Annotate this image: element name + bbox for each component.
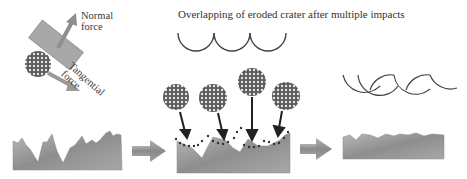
crater-arcs-overlapping xyxy=(343,75,457,96)
particle-icon xyxy=(25,51,51,77)
particle-icon xyxy=(272,82,300,110)
crater-arcs-single xyxy=(178,33,286,51)
diagram-title: Overlapping of eroded crater after multi… xyxy=(178,8,405,20)
normal-force-label: Normal force xyxy=(81,10,113,32)
arrow-1 xyxy=(132,140,166,162)
initial-rough-surface xyxy=(13,131,122,170)
arrow-2 xyxy=(300,138,332,160)
erosion-diagram xyxy=(0,0,467,179)
particle-icon xyxy=(238,68,266,96)
eroded-surface xyxy=(343,133,444,159)
impact-arrows xyxy=(180,97,284,140)
normal-force-label-line2: force xyxy=(81,21,113,32)
impacting-particles xyxy=(163,68,300,112)
particle-icon xyxy=(163,84,189,110)
normal-force-label-line1: Normal xyxy=(81,10,113,21)
particle-icon xyxy=(199,84,227,112)
